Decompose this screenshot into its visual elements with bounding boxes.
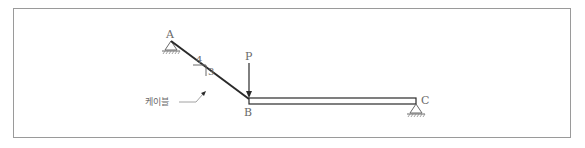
frame-border bbox=[14, 9, 571, 138]
load-p-label: P bbox=[245, 50, 253, 63]
point-a-label: A bbox=[165, 28, 175, 41]
diagram-canvas: 4 3 케이블 P A B C bbox=[0, 0, 585, 148]
cable-leader-line bbox=[179, 94, 203, 102]
slope-vertical-label: 3 bbox=[208, 66, 214, 77]
beam-cable-diagram: 4 3 케이블 P A B C bbox=[0, 0, 585, 148]
point-c-label: C bbox=[421, 94, 429, 107]
point-b-label: B bbox=[244, 106, 252, 119]
pin-support-a-icon bbox=[162, 41, 180, 54]
beam-bc bbox=[249, 98, 416, 104]
cable-label: 케이블 bbox=[145, 97, 169, 107]
slope-horizontal-label: 4 bbox=[196, 54, 202, 65]
